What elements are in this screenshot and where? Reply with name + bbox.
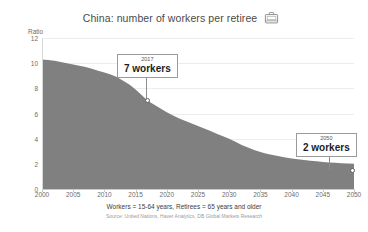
callout-2050-value: 2 workers [303,143,350,154]
footnote-source: Source: United Nations, Haver Analytics,… [0,213,368,219]
callout-2050: 2050 2 workers [296,133,357,157]
x-tickmark-2015 [136,189,137,192]
x-axis-ticks: 2000200520102015202020252030203520402045… [42,191,354,203]
x-tickmark-2010 [104,189,105,192]
x-tickmark-2045 [323,189,324,192]
callout-2017-value: 7 workers [124,64,171,75]
x-tick-label-2030: 2030 [222,191,236,198]
x-tickmark-2020 [167,189,168,192]
x-tick-label-2050: 2050 [347,191,361,198]
x-tickmark-2000 [42,189,43,192]
area-series-workers-per-retiree [42,38,354,189]
callout-2017-year: 2017 [124,57,171,63]
data-point-2050 [350,168,355,173]
plot-area [42,38,354,189]
x-tick-label-2000: 2000 [35,191,49,198]
callout-2017: 2017 7 workers [117,54,178,78]
y-tick-label-10: 10 [31,60,38,67]
chart-header: China: number of workers per retiree [0,11,368,24]
chart-container: China: number of workers per retiree Rat… [0,0,368,232]
y-tick-label-6: 6 [34,110,38,117]
x-tickmark-2025 [198,189,199,192]
x-tick-label-2010: 2010 [97,191,111,198]
y-tick-label-2: 2 [34,160,38,167]
x-tick-label-2005: 2005 [66,191,80,198]
footnote-definition: Workers = 15-64 years, Retirees = 65 yea… [0,203,368,210]
callout-leader-2050 [329,156,330,170]
y-tick-label-12: 12 [31,35,38,42]
callout-2050-year: 2050 [303,136,350,142]
y-tick-label-4: 4 [34,135,38,142]
y-tick-label-8: 8 [34,85,38,92]
data-point-2017 [145,98,150,103]
x-tickmark-2050 [354,189,355,192]
y-axis-ticks: 024681012 [22,38,38,189]
area-fill [42,59,354,189]
x-tickmark-2035 [260,189,261,192]
x-tickmark-2005 [73,189,74,192]
x-tickmark-2030 [229,189,230,192]
x-tickmark-2040 [292,189,293,192]
briefcase-icon [264,11,279,24]
x-tick-label-2045: 2045 [316,191,330,198]
x-tick-label-2040: 2040 [284,191,298,198]
callout-leader-2017 [146,77,147,100]
x-tick-label-2015: 2015 [128,191,142,198]
page-title: China: number of workers per retiree [83,12,258,24]
x-tick-label-2035: 2035 [253,191,267,198]
y-axis-line [42,38,43,189]
x-tick-label-2025: 2025 [191,191,205,198]
x-tick-label-2020: 2020 [160,191,174,198]
